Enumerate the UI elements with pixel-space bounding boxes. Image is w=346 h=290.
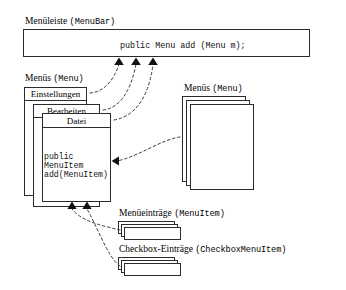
- menu-box-datei-code-line-3: add(MenuItem): [44, 170, 108, 179]
- diagram-canvas: Menüleiste (MenuBar) public Menu add (Me…: [0, 0, 346, 290]
- menu-box-einstellungen-title: Einstellungen: [24, 89, 87, 99]
- menuitem-stack-front[interactable]: [124, 227, 181, 240]
- menu-box-datei-code-line-1: public: [44, 152, 73, 161]
- connector-menus-right-to-datei: [117, 137, 180, 161]
- arrowhead-to-menubar-2: [131, 58, 141, 66]
- menubar-label: Menüleiste (MenuBar): [25, 16, 115, 28]
- menubar-label-code: (MenuBar): [70, 17, 116, 27]
- menuitems-label: Menüeinträge (MenuItem): [119, 208, 225, 220]
- menus-left-label-de: Menüs: [25, 73, 51, 83]
- menus-right-label: Menüs (Menu): [184, 83, 243, 95]
- menu-box-datei-code-line-2: MenuItem: [44, 161, 83, 170]
- checkbox-menuitem-stack-front[interactable]: [124, 263, 181, 276]
- checkbox-menuitems-label-de: Checkbox-Einträge: [119, 244, 193, 254]
- menubar-code-text: public Menu add (Menu m);: [120, 41, 246, 51]
- menus-left-label: Menüs (Menu): [25, 73, 84, 85]
- menubar-label-de: Menüleiste: [25, 16, 67, 26]
- menuitems-label-de: Menüeinträge: [119, 208, 172, 218]
- connector-datei-to-menubar: [114, 64, 153, 120]
- connector-einstellungen-to-menubar: [90, 64, 119, 93]
- arrowhead-to-menubar-1: [114, 58, 124, 66]
- menus-right-stack-front[interactable]: [190, 104, 254, 190]
- checkbox-menuitems-label: Checkbox-Einträge (CheckboxMenuItem): [119, 244, 286, 256]
- arrowhead-to-menubar-3: [148, 58, 158, 66]
- menuitems-label-code: (MenuItem): [174, 209, 225, 219]
- menu-box-datei-title: Datei: [42, 116, 111, 126]
- connector-bearbeiten-to-menubar: [103, 64, 136, 110]
- menu-box-datei-divider: [42, 127, 111, 128]
- menus-left-label-code: (Menu): [53, 74, 83, 84]
- menu-box-einstellungen-divider: [24, 100, 87, 101]
- menus-right-label-code: (Menu): [212, 84, 242, 94]
- connector-menuitem-to-datei: [72, 209, 120, 230]
- checkbox-menuitems-label-code: (CheckboxMenuItem): [195, 245, 286, 255]
- connector-checkbox-menuitem-to-datei: [87, 209, 120, 266]
- arrowhead-into-datei-right: [112, 156, 120, 165]
- menus-right-label-de: Menüs: [184, 83, 210, 93]
